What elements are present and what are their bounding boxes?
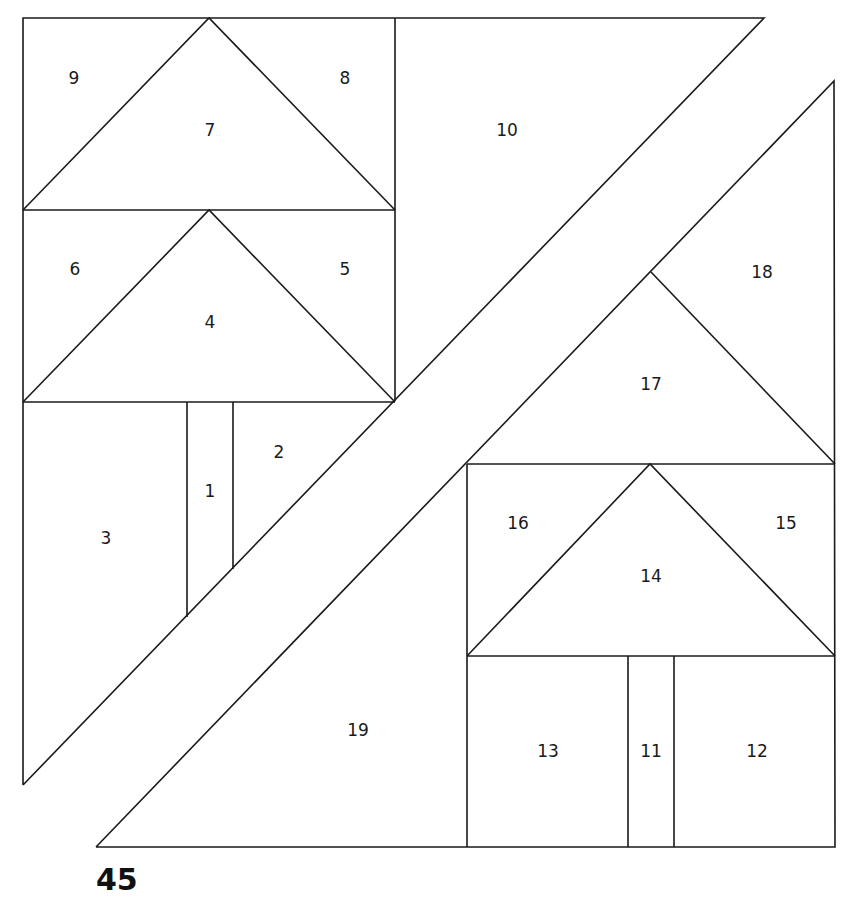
piece-label-4: 4: [205, 312, 216, 332]
piece-label-16: 16: [507, 513, 529, 533]
piece-label-18: 18: [751, 262, 773, 282]
piece-label-15: 15: [775, 513, 797, 533]
piece-label-9: 9: [69, 68, 80, 88]
triangle-14-edges: [467, 464, 835, 656]
piece-label-19: 19: [347, 720, 369, 740]
piece-label-3: 3: [101, 528, 112, 548]
piece-label-2: 2: [274, 442, 285, 462]
piece-label-14: 14: [640, 566, 662, 586]
piece-label-5: 5: [340, 259, 351, 279]
piece-label-12: 12: [746, 741, 768, 761]
triangle-7-edges: [23, 18, 395, 210]
piece-label-10: 10: [496, 120, 518, 140]
right-section-lines: [96, 81, 835, 847]
piece-label-1: 1: [205, 481, 216, 501]
piece-label-13: 13: [537, 741, 559, 761]
piece-label-6: 6: [70, 259, 81, 279]
piece-labels: 12345678910111213141516171819: [69, 68, 797, 761]
piece-label-11: 11: [640, 741, 662, 761]
page-number: 45: [96, 862, 138, 897]
piece-label-7: 7: [205, 120, 216, 140]
left-section-lines: [23, 18, 764, 785]
piece-label-8: 8: [340, 68, 351, 88]
pattern-diagram: 12345678910111213141516171819: [0, 0, 845, 901]
triangle-4-edges: [23, 210, 395, 402]
triangle-17-right-edge: [651, 272, 835, 464]
piece-label-17: 17: [640, 374, 662, 394]
